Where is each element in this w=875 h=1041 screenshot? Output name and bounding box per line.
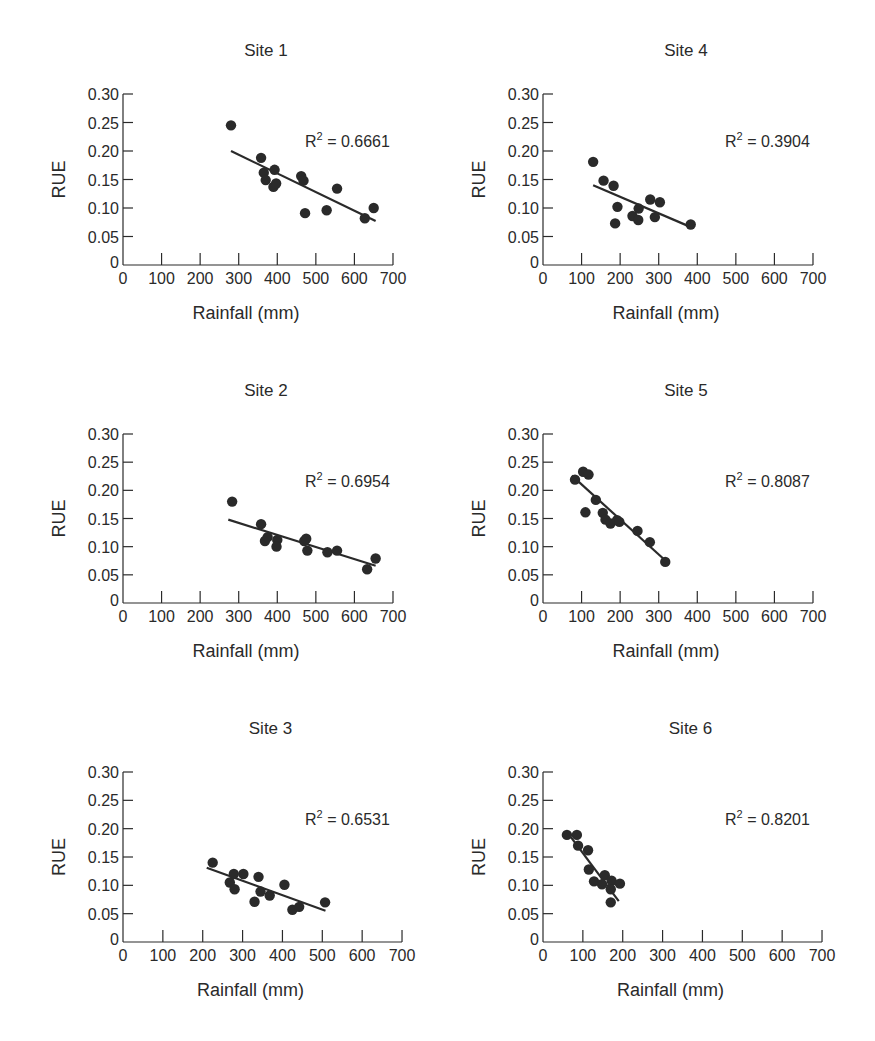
panel-title: Site 2 bbox=[244, 381, 287, 400]
x-tick-label: 500 bbox=[302, 270, 329, 287]
y-tick-label: 0.10 bbox=[508, 200, 539, 217]
x-tick-label: 300 bbox=[645, 608, 672, 625]
y-tick-label: 0.25 bbox=[88, 115, 119, 132]
data-point bbox=[686, 219, 696, 229]
y-tick-label: 0.20 bbox=[508, 821, 539, 838]
data-point bbox=[321, 205, 331, 215]
data-point bbox=[573, 840, 583, 850]
data-point bbox=[332, 183, 342, 193]
panel-title: Site 3 bbox=[249, 719, 292, 738]
data-point bbox=[207, 857, 217, 867]
r-squared-annotation: R2 = 0.3904 bbox=[725, 130, 810, 150]
x-tick-label: 200 bbox=[607, 608, 634, 625]
y-tick-label: 0.05 bbox=[508, 906, 539, 923]
r-squared-annotation: R2 = 0.6661 bbox=[305, 130, 390, 150]
y-tick-label: 0.25 bbox=[508, 115, 539, 132]
x-tick-label: 600 bbox=[761, 270, 788, 287]
x-tick-label: 600 bbox=[349, 947, 376, 964]
data-point bbox=[598, 175, 608, 185]
data-point bbox=[606, 884, 616, 894]
x-tick-label: 400 bbox=[264, 608, 291, 625]
y-axis-label: RUE bbox=[469, 838, 489, 876]
data-point bbox=[271, 178, 281, 188]
x-tick-label: 0 bbox=[539, 270, 548, 287]
x-tick-label: 700 bbox=[389, 947, 416, 964]
x-tick-label: 0 bbox=[539, 608, 548, 625]
data-point bbox=[632, 526, 642, 536]
y-tick-label: 0.30 bbox=[88, 764, 119, 781]
data-point bbox=[229, 884, 239, 894]
x-tick-label: 200 bbox=[609, 947, 636, 964]
data-point bbox=[583, 469, 593, 479]
y-tick-label: 0.05 bbox=[88, 567, 119, 584]
x-axis-label: Rainfall (mm) bbox=[617, 980, 724, 1000]
y-tick-label: 0 bbox=[530, 931, 539, 948]
y-tick-label: 0.05 bbox=[508, 229, 539, 246]
y-tick-label: 0 bbox=[530, 254, 539, 271]
trendline bbox=[207, 868, 326, 911]
x-tick-label: 600 bbox=[769, 947, 796, 964]
data-point bbox=[249, 897, 259, 907]
data-point bbox=[362, 564, 372, 574]
y-tick-label: 0 bbox=[110, 931, 119, 948]
x-tick-label: 500 bbox=[722, 608, 749, 625]
data-point bbox=[583, 845, 593, 855]
y-tick-label: 0.10 bbox=[88, 200, 119, 217]
x-tick-label: 700 bbox=[809, 947, 836, 964]
panel-title: Site 4 bbox=[664, 41, 707, 60]
data-point bbox=[633, 215, 643, 225]
y-tick-label: 0.05 bbox=[88, 229, 119, 246]
data-point bbox=[227, 496, 237, 506]
r-squared-annotation: R2 = 0.6954 bbox=[305, 470, 390, 490]
panel-site-1: Site 100.050.100.150.200.250.30010020030… bbox=[49, 41, 406, 323]
data-point bbox=[645, 537, 655, 547]
data-point bbox=[597, 879, 607, 889]
data-point bbox=[269, 165, 279, 175]
data-point bbox=[612, 202, 622, 212]
y-tick-label: 0 bbox=[110, 592, 119, 609]
y-axis-label: RUE bbox=[49, 160, 69, 198]
data-point bbox=[298, 175, 308, 185]
x-tick-label: 400 bbox=[264, 270, 291, 287]
data-point bbox=[591, 495, 601, 505]
x-axis-label: Rainfall (mm) bbox=[612, 641, 719, 661]
x-tick-label: 500 bbox=[302, 608, 329, 625]
y-tick-label: 0.20 bbox=[88, 143, 119, 160]
data-point bbox=[572, 830, 582, 840]
x-tick-label: 400 bbox=[269, 947, 296, 964]
y-tick-label: 0.30 bbox=[88, 86, 119, 103]
x-axis-label: Rainfall (mm) bbox=[612, 303, 719, 323]
x-tick-label: 600 bbox=[761, 608, 788, 625]
x-tick-label: 0 bbox=[539, 947, 548, 964]
data-point bbox=[271, 541, 281, 551]
y-axis-label: RUE bbox=[49, 499, 69, 537]
r-squared-annotation: R2 = 0.8087 bbox=[725, 470, 810, 490]
panel-site-6: Site 600.050.100.150.200.250.30010020030… bbox=[469, 719, 835, 1000]
y-tick-label: 0.20 bbox=[88, 821, 119, 838]
data-point bbox=[610, 218, 620, 228]
x-tick-label: 100 bbox=[568, 608, 595, 625]
y-tick-label: 0.20 bbox=[508, 143, 539, 160]
y-tick-label: 0.20 bbox=[88, 482, 119, 499]
y-tick-label: 0.30 bbox=[508, 426, 539, 443]
y-tick-label: 0.05 bbox=[88, 906, 119, 923]
x-tick-label: 200 bbox=[189, 947, 216, 964]
x-tick-label: 100 bbox=[570, 947, 597, 964]
figure-canvas: Site 100.050.100.150.200.250.30010020030… bbox=[0, 0, 875, 1041]
data-point bbox=[226, 120, 236, 130]
x-tick-label: 500 bbox=[729, 947, 756, 964]
data-point bbox=[322, 547, 332, 557]
data-point bbox=[332, 545, 342, 555]
panel-site-5: Site 500.050.100.150.200.250.30010020030… bbox=[469, 381, 826, 661]
data-point bbox=[584, 864, 594, 874]
x-tick-label: 500 bbox=[722, 270, 749, 287]
y-tick-label: 0.30 bbox=[508, 86, 539, 103]
x-tick-label: 600 bbox=[341, 608, 368, 625]
y-tick-label: 0.10 bbox=[88, 539, 119, 556]
x-tick-label: 700 bbox=[380, 270, 407, 287]
x-tick-label: 300 bbox=[229, 947, 256, 964]
y-tick-label: 0.25 bbox=[88, 454, 119, 471]
data-point bbox=[660, 557, 670, 567]
x-axis-label: Rainfall (mm) bbox=[192, 303, 299, 323]
panel-site-2: Site 200.050.100.150.200.250.30010020030… bbox=[49, 381, 406, 661]
